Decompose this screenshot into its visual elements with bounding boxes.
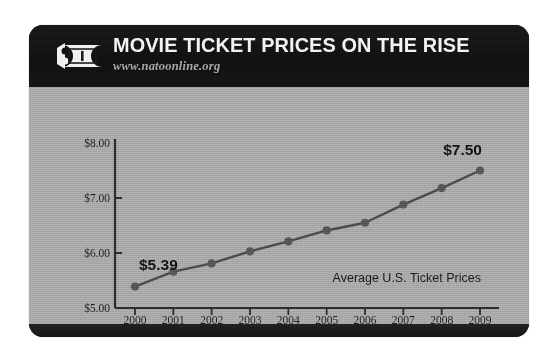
data-label-2000: $5.39	[139, 256, 178, 273]
data-label-2009: $7.50	[443, 141, 482, 158]
page-title: MOVIE TICKET PRICES ON THE RISE	[113, 33, 509, 56]
series-line	[135, 171, 480, 287]
data-point	[438, 184, 446, 192]
header-text-block: MOVIE TICKET PRICES ON THE RISE www.nato…	[113, 33, 521, 74]
line-chart: $8.00 $7.00 $6.00 $5.00 2000200120022003…	[29, 87, 529, 325]
movie-ticket-icon	[53, 34, 111, 78]
chart-plot-area: $8.00 $7.00 $6.00 $5.00 2000200120022003…	[29, 87, 529, 325]
infographic-card: MOVIE TICKET PRICES ON THE RISE www.nato…	[29, 25, 529, 337]
data-point	[476, 166, 484, 174]
footer-bar	[29, 324, 529, 337]
data-point	[131, 282, 139, 290]
y-tick-label: $6.00	[84, 247, 110, 259]
y-tick-label: $7.00	[84, 192, 110, 204]
y-tick-label: $5.00	[84, 302, 110, 314]
data-point	[323, 226, 331, 234]
data-point	[246, 247, 254, 255]
source-url: www.natoonline.org	[113, 58, 521, 74]
data-point	[361, 219, 369, 227]
chart-annotation: Average U.S. Ticket Prices	[333, 271, 481, 285]
y-tick-label: $8.00	[84, 137, 110, 149]
header-bar: MOVIE TICKET PRICES ON THE RISE www.nato…	[29, 25, 529, 87]
data-point	[208, 259, 216, 267]
y-axis-labels: $8.00 $7.00 $6.00 $5.00	[84, 137, 110, 314]
data-point	[399, 201, 407, 209]
data-point	[284, 237, 292, 245]
